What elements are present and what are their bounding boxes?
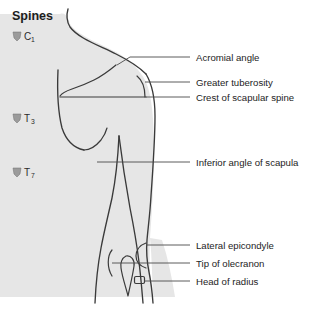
forearm-fill [150,238,175,297]
label-head-of-radius: Head of radius [196,276,259,287]
label-tip-of-olecranon: Tip of olecranon [196,258,264,269]
label-lateral-epicondyle: Lateral epicondyle [196,240,274,251]
spine-level-subscript: 7 [31,172,35,179]
label-inferior-angle-of-scapula: Inferior angle of scapula [196,157,299,168]
surface-anatomy-diagram: Spines C 1 T 3 T 7 Acromial angle Greate… [0,0,315,313]
label-acromial-angle: Acromial angle [196,52,259,63]
body-silhouette [0,14,175,297]
figure-title: Spines [12,9,53,23]
label-crest-of-scapular-spine: Crest of scapular spine [196,92,294,103]
label-greater-tuberosity: Greater tuberosity [196,77,273,88]
spine-level-subscript: 1 [31,36,35,43]
torso-arm-fill [0,14,154,297]
spine-level-letter: T [24,113,30,124]
anatomy-figure-page: Spines C 1 T 3 T 7 Acromial angle Greate… [0,0,315,313]
spine-level-letter: T [24,167,30,178]
spine-level-subscript: 3 [31,118,35,125]
